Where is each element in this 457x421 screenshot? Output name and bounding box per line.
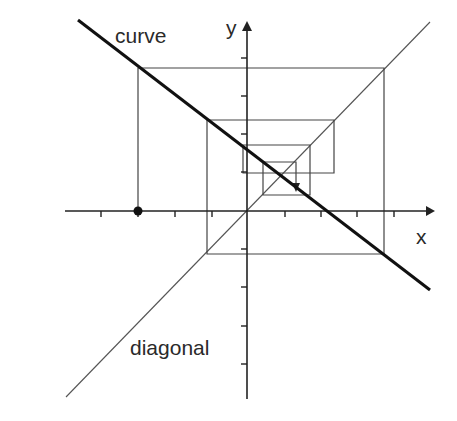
- y-axis-label: y: [226, 17, 237, 38]
- diagonal-label: diagonal: [130, 337, 209, 358]
- start-point: [134, 207, 143, 216]
- x-axis-label: x: [416, 226, 427, 247]
- cobweb-diagram: curve y x diagonal: [0, 0, 457, 421]
- curve-label: curve: [115, 25, 166, 46]
